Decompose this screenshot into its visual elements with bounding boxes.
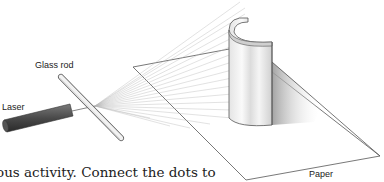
body-text-fragment: ous activity. Connect the dots to (0, 164, 216, 180)
curved-mirror (229, 18, 272, 126)
laser-label: Laser (2, 102, 25, 112)
laser-diagram (0, 0, 384, 182)
glass-rod-label: Glass rod (35, 60, 74, 70)
cylinder-shadow (272, 62, 322, 125)
paper-label: Paper (309, 169, 333, 179)
